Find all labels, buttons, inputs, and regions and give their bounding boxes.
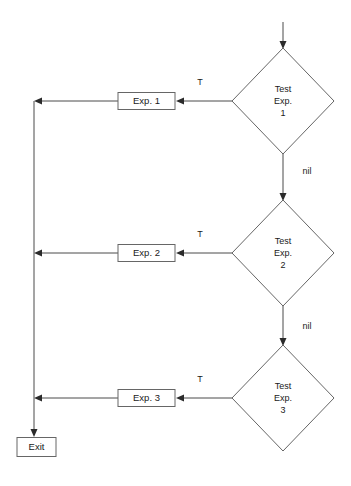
decision-3-label-line1: Test <box>275 381 292 391</box>
decision-1-label-line2: Exp. <box>274 96 292 106</box>
exp-3-label: Exp. 3 <box>133 392 160 403</box>
decision-3-label-line2: Exp. <box>274 393 292 403</box>
flowchart-canvas: Test Exp. 1 Test Exp. 2 Test Exp. 3 Exp.… <box>0 0 351 486</box>
arrow-head-exp2-merge <box>34 250 42 257</box>
decision-2-label-line1: Test <box>275 236 292 246</box>
arrow-head-true-2 <box>176 250 184 257</box>
decision-2-label-line2: Exp. <box>274 248 292 258</box>
arrow-head-exp1-merge <box>34 98 42 105</box>
edge-trunk-to-exit <box>31 101 38 437</box>
exp-2-label: Exp. 2 <box>133 247 160 258</box>
process-node-exp-1[interactable]: Exp. 1 <box>118 93 175 110</box>
decision-node-test-exp-3[interactable]: Test Exp. 3 <box>232 345 334 451</box>
decision-2-label-line3: 2 <box>280 260 285 270</box>
decision-node-test-exp-2[interactable]: Test Exp. 2 <box>232 200 334 306</box>
exit-label: Exit <box>29 441 45 452</box>
edge-label-true-3: T <box>197 374 203 384</box>
edge-entry <box>280 22 287 49</box>
flowchart-svg: Test Exp. 1 Test Exp. 2 Test Exp. 3 Exp.… <box>0 0 351 486</box>
edge-label-true-2: T <box>197 229 203 239</box>
exp-1-label: Exp. 1 <box>133 95 160 106</box>
arrow-head-exp3-merge <box>34 395 42 402</box>
process-node-exp-3[interactable]: Exp. 3 <box>118 390 175 407</box>
arrow-head-exit <box>31 429 38 437</box>
edge-nil-2 <box>280 306 287 346</box>
decision-node-test-exp-1[interactable]: Test Exp. 1 <box>232 48 334 154</box>
process-node-exp-2[interactable]: Exp. 2 <box>118 245 175 262</box>
edge-exp3-to-trunk <box>34 395 118 402</box>
edge-label-true-1: T <box>197 77 203 87</box>
edge-true-2 <box>176 250 232 257</box>
edge-label-nil-1: nil <box>302 166 311 176</box>
decision-1-label-line1: Test <box>275 84 292 94</box>
edge-true-3 <box>176 395 232 402</box>
decision-1-label-line3: 1 <box>280 108 285 118</box>
edge-true-1 <box>176 98 232 105</box>
edge-label-nil-2: nil <box>302 321 311 331</box>
edge-exp1-to-trunk <box>34 98 118 105</box>
decision-3-label-line3: 3 <box>280 405 285 415</box>
edge-nil-1 <box>280 153 287 201</box>
arrow-head-true-3 <box>176 395 184 402</box>
edge-exp2-to-trunk <box>34 250 118 257</box>
arrow-head-true-1 <box>176 98 184 105</box>
terminal-node-exit[interactable]: Exit <box>17 438 56 457</box>
